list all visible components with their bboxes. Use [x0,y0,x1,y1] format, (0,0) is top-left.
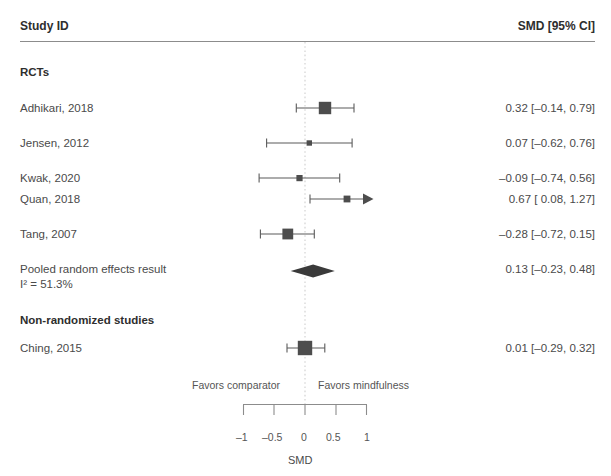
effect-marker [307,140,312,145]
effect-marker [296,175,302,181]
forest-row-tang-2007 [260,229,314,240]
forest-row-adhikari-2018 [296,102,354,114]
effect-marker [298,341,312,355]
pooled-effect-diamond [291,265,335,278]
effect-marker [282,229,293,240]
effect-marker [319,102,331,114]
forest-row-kwak-2020 [259,174,340,183]
forest-row-jensen-2012 [267,139,353,148]
forest-row-ching-2015 [287,341,325,355]
effect-marker [344,196,351,203]
forest-plot-graphics [0,0,611,476]
forest-row-quan-2018 [310,194,374,205]
x-axis [243,405,367,416]
ci-arrow-high [363,194,374,205]
